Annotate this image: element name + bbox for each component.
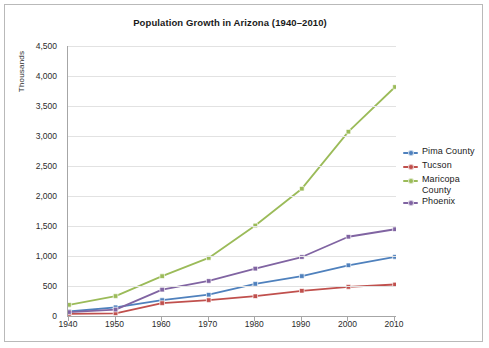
x-tick-label: 1940 — [59, 319, 78, 329]
y-axis-tick-labels: 05001,0001,5002,0002,5003,0003,5004,0004… — [5, 46, 63, 316]
data-point — [160, 274, 165, 279]
y-tick-label: 1,000 — [36, 251, 57, 261]
series-lines — [68, 46, 396, 316]
x-tick-label: 1950 — [105, 319, 124, 329]
legend-item-label: Pima County — [422, 146, 475, 157]
data-point — [300, 289, 305, 294]
data-point — [393, 227, 396, 232]
gridline — [68, 196, 396, 197]
y-tick-label: 2,500 — [36, 161, 57, 171]
legend-item[interactable]: Pima County — [403, 146, 489, 159]
y-tick-label: 0 — [52, 311, 57, 321]
y-tick-label: 500 — [43, 281, 57, 291]
legend-swatch-icon — [403, 197, 418, 208]
legend-swatch-icon — [403, 175, 418, 186]
data-point — [206, 298, 211, 303]
data-point — [346, 234, 351, 239]
data-point — [253, 266, 258, 271]
x-tick-label: 1990 — [291, 319, 310, 329]
gridline — [68, 256, 396, 257]
data-point — [393, 85, 396, 90]
data-point — [300, 186, 305, 191]
data-point — [206, 292, 211, 297]
data-point — [113, 307, 118, 312]
y-tick-label: 2,000 — [36, 191, 57, 201]
legend-item[interactable]: Phoenix — [403, 196, 489, 209]
data-point — [113, 294, 118, 299]
legend-item[interactable]: Maricopa County — [403, 174, 489, 195]
gridline — [68, 76, 396, 77]
x-tick-label: 2010 — [385, 319, 404, 329]
legend-item[interactable]: Tucson — [403, 160, 489, 173]
plot-area — [67, 46, 396, 317]
data-point — [300, 274, 305, 279]
x-tick-label: 1980 — [245, 319, 264, 329]
y-tick-label: 1,500 — [36, 221, 57, 231]
gridline — [68, 106, 396, 107]
gridline — [68, 226, 396, 227]
gridline — [68, 286, 396, 287]
x-tick-label: 2000 — [338, 319, 357, 329]
legend-item-label: Phoenix — [422, 196, 455, 207]
y-tick-label: 3,000 — [36, 131, 57, 141]
data-point — [346, 263, 351, 268]
data-point — [68, 310, 71, 315]
x-tick-label: 1970 — [198, 319, 217, 329]
y-tick-label: 3,500 — [36, 101, 57, 111]
data-point — [160, 301, 165, 306]
gridline — [68, 166, 396, 167]
data-point — [346, 129, 351, 134]
legend: Pima CountyTucsonMaricopa CountyPhoenix — [403, 146, 489, 210]
chart-frame: Population Growth in Arizona (1940–2010)… — [4, 4, 483, 342]
y-tick-label: 4,000 — [36, 71, 57, 81]
data-point — [160, 287, 165, 292]
y-tick-label: 4,500 — [36, 41, 57, 51]
data-point — [206, 279, 211, 284]
gridline — [68, 46, 396, 47]
legend-swatch-icon — [403, 147, 418, 158]
legend-swatch-icon — [403, 161, 418, 172]
data-point — [253, 294, 258, 299]
gridline — [68, 136, 396, 137]
page-title: Population Growth in Arizona (1940–2010) — [65, 17, 395, 28]
data-point — [68, 303, 71, 308]
legend-item-label: Maricopa County — [422, 174, 489, 195]
x-axis-tick-labels: 19401950196019701980199020002010 — [67, 319, 395, 339]
x-tick-label: 1960 — [152, 319, 171, 329]
legend-item-label: Tucson — [422, 160, 452, 171]
